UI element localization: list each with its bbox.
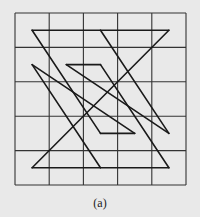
figure-caption: (a): [0, 196, 200, 211]
path-segment: [32, 30, 169, 168]
grid-figure: [0, 0, 200, 217]
figure-path: [32, 30, 169, 168]
